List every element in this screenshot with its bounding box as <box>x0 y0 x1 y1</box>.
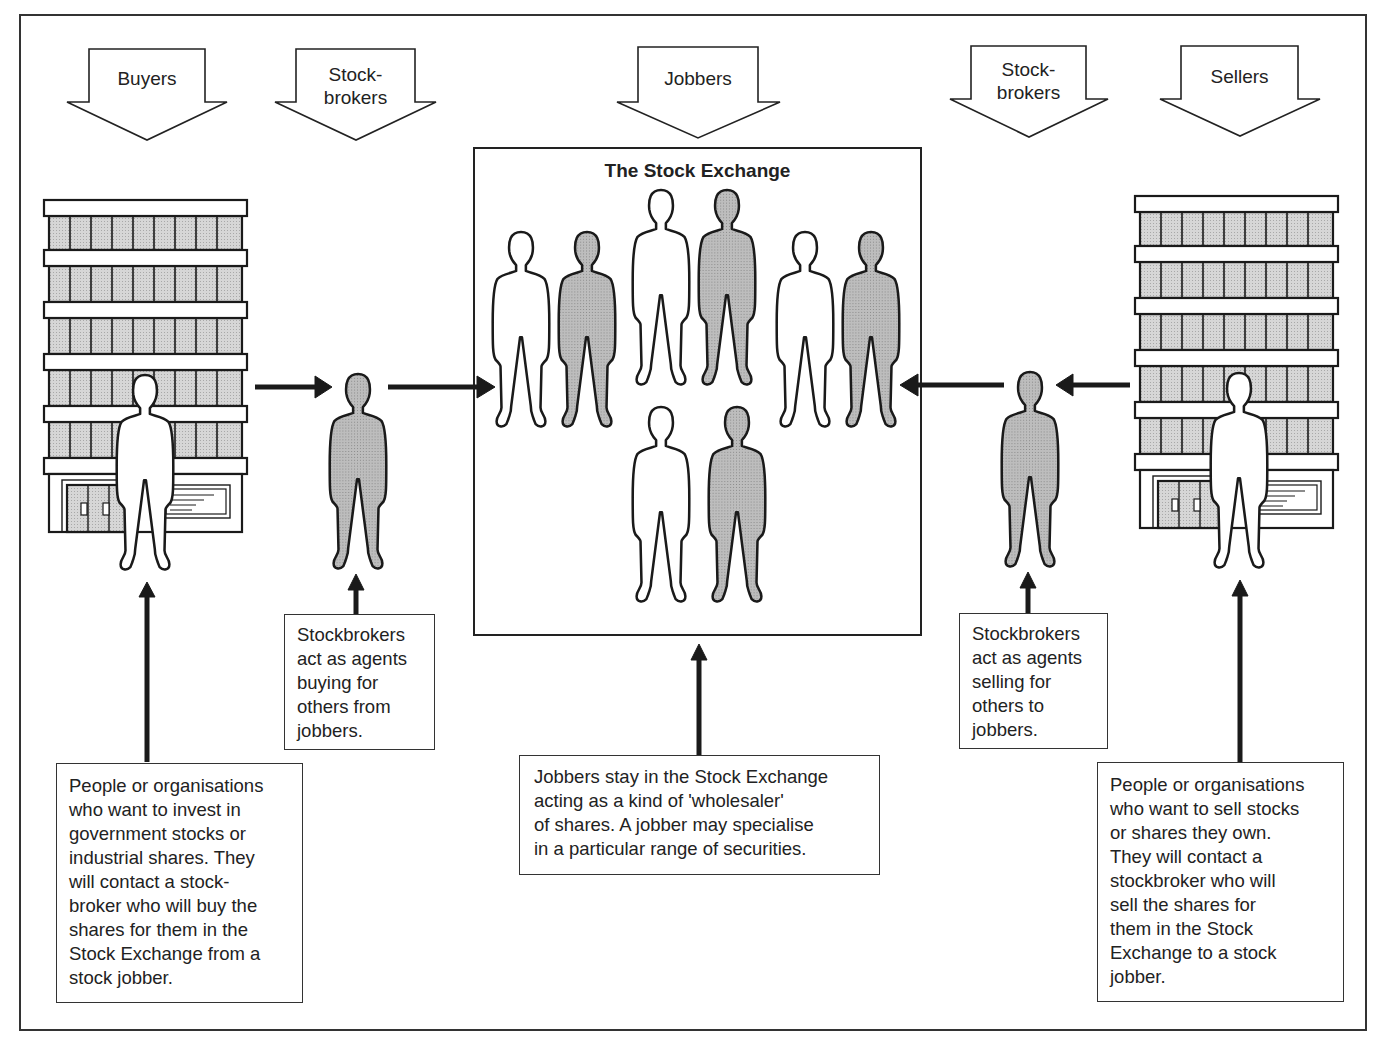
stockbrokers-right-label: Stock- brokers <box>971 58 1086 104</box>
stockbroker-buy-person-icon <box>330 374 387 569</box>
header-arrows <box>67 46 1320 140</box>
stockbroker-buy-description-box: Stockbrokers act as agents buying for ot… <box>284 614 435 750</box>
sellers-description-box: People or organisations who want to sell… <box>1097 762 1344 1002</box>
buyers-label: Buyers <box>89 67 205 90</box>
stockbrokers-left-label: Stock- brokers <box>296 63 415 109</box>
stockbroker-sell-person-icon <box>1002 372 1059 567</box>
stockbroker-sell-description-box: Stockbrokers act as agents selling for o… <box>959 613 1108 749</box>
buyers-description-box: People or organisations who want to inve… <box>56 763 303 1003</box>
stock-exchange-title: The Stock Exchange <box>474 160 921 182</box>
sellers-label: Sellers <box>1181 65 1298 88</box>
jobbers-description-box: Jobbers stay in the Stock Exchange actin… <box>519 755 880 875</box>
stock-exchange-diagram: Buyers Stock- brokers Jobbers Stock- bro… <box>0 0 1387 1050</box>
jobbers-label: Jobbers <box>638 67 758 90</box>
jobbers-arrow <box>617 47 780 138</box>
sellers-arrow <box>1160 46 1320 136</box>
buyers-arrow <box>67 49 227 140</box>
